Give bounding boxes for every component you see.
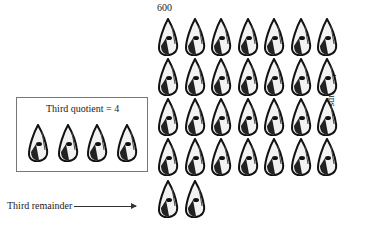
- cone-shell-icon: [316, 98, 338, 136]
- cone-shell-icon: [316, 18, 338, 56]
- cone-shell-icon: [184, 180, 206, 218]
- cone-shell-icon: [290, 58, 312, 96]
- cone-shell-icon: [237, 138, 259, 176]
- cone-shell-icon: [27, 124, 49, 162]
- cone-shell-icon: [316, 138, 338, 176]
- remainder-label: Third remainder: [7, 200, 72, 211]
- cone-shell-icon: [184, 138, 206, 176]
- cone-shell-icon: [263, 18, 285, 56]
- cone-shell-icon: [237, 58, 259, 96]
- cone-shell-icon: [184, 18, 206, 56]
- cone-shell-icon: [157, 180, 179, 218]
- cone-shell-icon: [86, 124, 108, 162]
- cone-shell-icon: [157, 58, 179, 96]
- cone-shell-icon: [210, 58, 232, 96]
- cone-shell-icon: [184, 98, 206, 136]
- cone-shell-icon: [210, 98, 232, 136]
- cone-shell-icon: [157, 18, 179, 56]
- cone-shell-icon: [157, 138, 179, 176]
- cone-shell-icon: [157, 98, 179, 136]
- cone-shell-icon: [57, 124, 79, 162]
- top-label: 600: [157, 2, 172, 13]
- quotient-label: Third quotient = 4: [46, 103, 119, 114]
- cone-shell-icon: [237, 98, 259, 136]
- cone-shell-icon: [263, 138, 285, 176]
- cone-shell-icon: [210, 138, 232, 176]
- cone-shell-icon: [263, 58, 285, 96]
- cone-shell-icon: [290, 18, 312, 56]
- cone-shell-icon: [316, 58, 338, 96]
- cone-shell-icon: [290, 138, 312, 176]
- cone-shell-icon: [237, 18, 259, 56]
- cone-shell-icon: [263, 98, 285, 136]
- cone-shell-icon: [290, 98, 312, 136]
- cone-shell-icon: [116, 124, 138, 162]
- cone-shell-icon: [184, 58, 206, 96]
- arrow-icon: [74, 206, 136, 207]
- cone-shell-icon: [210, 18, 232, 56]
